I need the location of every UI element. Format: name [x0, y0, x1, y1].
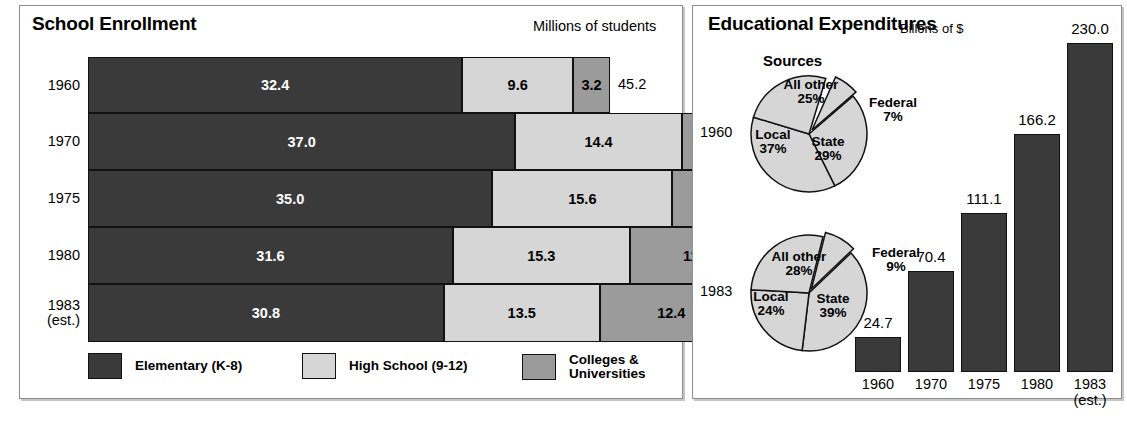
enrollment-row-label: 1980	[18, 248, 80, 263]
expenditure-bar	[855, 337, 901, 372]
enrollment-segment-value: 37.0	[288, 134, 316, 150]
enrollment-segment-elementary: 31.6	[88, 227, 453, 284]
pie-1983-label-state: State39%	[805, 292, 861, 319]
enrollment-row-total: 45.2	[618, 76, 646, 92]
pie-1983-label-all-other: All other28%	[760, 250, 838, 277]
enrollment-segment-high-school: 13.5	[444, 284, 600, 342]
enrollment-segment-high-school: 15.6	[492, 170, 672, 227]
enrollment-segment-value: 3.2	[581, 77, 601, 93]
enrollment-segment-elementary: 32.4	[88, 57, 462, 113]
pie-slice-pct: 37%	[744, 142, 802, 156]
legend-item-high-school: High School (9-12)	[302, 353, 468, 379]
pie-1960-label-state: State29%	[800, 135, 856, 162]
enrollment-segment-value: 30.8	[252, 305, 280, 321]
expenditure-bar-year: 1983(est.)	[1055, 376, 1125, 408]
enrollment-segment-value: 31.6	[256, 248, 284, 264]
pie-slice-name: Local	[742, 290, 800, 304]
enrollment-segment-value: 15.3	[527, 248, 555, 264]
enrollment-segment-value: 12.4	[657, 305, 685, 321]
expenditure-bar-value: 166.2	[1002, 111, 1072, 128]
enrollment-stacked-bar-chart: 196032.49.63.245.2197037.014.47.158.6197…	[0, 0, 662, 392]
enrollment-segment-high-school: 15.3	[453, 227, 630, 284]
enrollment-legend: Elementary (K-8)High School (9-12)Colleg…	[88, 349, 648, 387]
enrollment-segment-value: 15.6	[568, 191, 596, 207]
enrollment-segment-elementary: 37.0	[88, 113, 515, 170]
expenditure-bar	[1014, 134, 1060, 372]
enrollment-row-label: 1983(est.)	[18, 298, 80, 328]
pie-1983-label-federal: Federal9%	[858, 246, 934, 273]
enrollment-segment-value: 9.6	[508, 77, 528, 93]
expenditure-bar-value: 111.1	[949, 190, 1019, 207]
expenditure-bar-value: 230.0	[1055, 20, 1125, 37]
legend-label-colleges: Colleges &Universities	[569, 353, 646, 381]
pie-1960-label-all-other: All other25%	[772, 78, 850, 105]
pie-1983-label-local: Local24%	[742, 290, 800, 317]
expenditure-bar	[961, 213, 1007, 372]
expenditure-bar	[908, 271, 954, 372]
pie-year-label-1960: 1960	[700, 124, 732, 140]
sources-label: Sources	[763, 52, 822, 69]
enrollment-segment-value: 35.0	[276, 191, 304, 207]
enrollment-row-label: 1970	[18, 134, 80, 149]
pie-1960-label-federal: Federal7%	[855, 96, 931, 123]
enrollment-segment-colleges: 3.2	[573, 57, 610, 113]
enrollment-segment-high-school: 14.4	[515, 113, 681, 170]
pie-year-label-1983: 1983	[700, 283, 732, 299]
legend-swatch-colleges	[522, 354, 556, 380]
pie-slice-pct: 25%	[772, 92, 850, 106]
pie-slice-name: Local	[744, 128, 802, 142]
right-chart-units: Billons of $	[900, 21, 964, 36]
legend-label-high-school: High School (9-12)	[349, 359, 468, 373]
pie-slice-name: State	[800, 135, 856, 149]
pie-slice-pct: 7%	[855, 110, 931, 124]
legend-swatch-elementary	[88, 353, 122, 379]
enrollment-segment-elementary: 30.8	[88, 284, 444, 342]
pie-slice-name: All other	[760, 250, 838, 264]
legend-label-elementary: Elementary (K-8)	[135, 359, 242, 373]
enrollment-segment-value: 32.4	[261, 77, 289, 93]
enrollment-segment-high-school: 9.6	[462, 57, 573, 113]
pie-slice-name: Federal	[855, 96, 931, 110]
pie-slice-pct: 39%	[805, 306, 861, 320]
pie-slice-name: Federal	[858, 246, 934, 260]
enrollment-segment-value: 14.4	[584, 134, 612, 150]
pie-slice-pct: 28%	[760, 264, 838, 278]
legend-item-elementary: Elementary (K-8)	[88, 353, 242, 379]
pie-slice-name: All other	[772, 78, 850, 92]
legend-swatch-high-school	[302, 353, 336, 379]
pie-1960-label-local: Local37%	[744, 128, 802, 155]
enrollment-segment-elementary: 35.0	[88, 170, 492, 227]
pie-slice-name: State	[805, 292, 861, 306]
enrollment-segment-value: 13.5	[508, 305, 536, 321]
pie-slice-pct: 9%	[858, 260, 934, 274]
infographic-root: School Enrollment Millions of students 1…	[0, 0, 1127, 421]
expenditure-bar	[1067, 43, 1113, 372]
enrollment-row-label: 1960	[18, 78, 80, 93]
enrollment-row-label: 1975	[18, 191, 80, 206]
pie-slice-pct: 24%	[742, 304, 800, 318]
legend-item-colleges: Colleges &Universities	[522, 353, 646, 381]
pie-slice-pct: 29%	[800, 149, 856, 163]
